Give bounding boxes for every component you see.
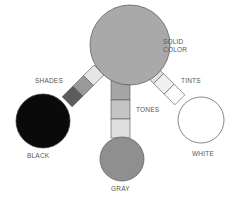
- solid-color-circle: [90, 5, 170, 85]
- white-label: WHITE: [192, 150, 214, 158]
- tone-step-3: [111, 119, 130, 138]
- gray-label: GRAY: [111, 185, 130, 193]
- white-circle: [178, 97, 224, 143]
- color-diagram: [0, 0, 236, 204]
- tints-label: TINTS: [181, 77, 201, 85]
- tones-bar: [111, 80, 130, 138]
- solid-color-label: SOLID COLOR: [163, 38, 187, 54]
- tone-step-2: [111, 100, 130, 119]
- shades-label: SHADES: [35, 77, 63, 85]
- black-label: BLACK: [27, 152, 49, 160]
- black-circle: [16, 94, 70, 148]
- shades-bar: [62, 65, 104, 107]
- tones-label: TONES: [136, 106, 159, 114]
- gray-circle: [100, 137, 144, 181]
